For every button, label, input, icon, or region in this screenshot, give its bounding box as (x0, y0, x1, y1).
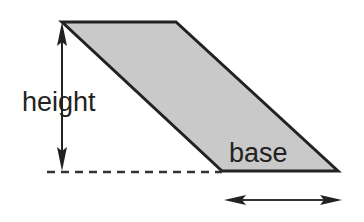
parallelogram-diagram: height base (0, 0, 364, 222)
base-arrow-icon (224, 195, 342, 205)
height-label: height (22, 87, 96, 117)
parallelogram-shape (62, 22, 338, 171)
base-label: base (229, 138, 288, 168)
